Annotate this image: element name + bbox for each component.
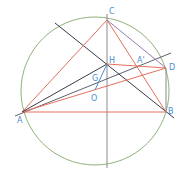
label-h: H	[109, 56, 115, 65]
label-d: D	[169, 63, 175, 72]
segment-ah	[22, 64, 107, 112]
label-c: C	[109, 7, 115, 16]
circumcircle	[21, 17, 169, 165]
label-a-prime: A'	[137, 56, 145, 65]
label-o: O	[91, 94, 97, 103]
label-a: A	[17, 116, 23, 125]
label-g: G	[92, 74, 98, 83]
label-b: B	[168, 107, 174, 116]
geometry-diagram: C H A' D G O A B	[0, 0, 186, 175]
